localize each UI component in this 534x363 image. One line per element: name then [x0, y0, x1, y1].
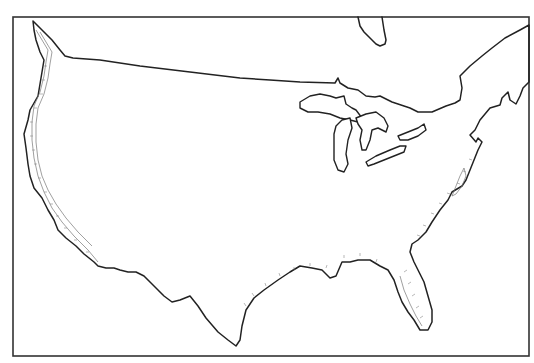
lake-erie — [366, 146, 406, 166]
lake-huron — [356, 112, 388, 150]
hudson-bay-outline — [358, 17, 386, 46]
chesapeake-contour — [452, 168, 466, 196]
atlantic-tick-marks — [417, 159, 472, 236]
pacific-contour-line — [32, 30, 98, 262]
map-frame — [13, 17, 529, 356]
pacific-contour-line-2 — [36, 32, 92, 246]
map-canvas — [0, 0, 534, 363]
florida-contour — [400, 276, 422, 326]
lake-michigan — [334, 118, 352, 172]
lake-superior — [300, 94, 362, 122]
lake-ontario — [398, 124, 426, 140]
us-mainland-outline — [24, 21, 529, 346]
